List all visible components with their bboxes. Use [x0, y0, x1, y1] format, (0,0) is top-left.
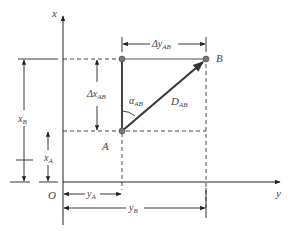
- svg-text:yA: yA: [86, 188, 96, 201]
- svg-text:ΔxAB: ΔxAB: [86, 88, 107, 101]
- point-B: [203, 56, 209, 62]
- alpha-arc: [122, 111, 135, 116]
- xA-dimension: xA: [39, 132, 58, 182]
- svg-text:yB: yB: [128, 202, 138, 215]
- yB-dimension: yB: [64, 188, 206, 218]
- y-axis-label: y: [275, 187, 281, 199]
- point-top-left: [119, 56, 125, 62]
- point-A-label: A: [101, 140, 109, 152]
- origin-label: O: [48, 189, 56, 201]
- point-B-label: B: [216, 52, 223, 64]
- svg-text:xA: xA: [43, 152, 53, 165]
- x-axis-label: x: [51, 7, 57, 19]
- delta-y-dimension: ΔyAB: [122, 37, 206, 52]
- delta-x-dimension: ΔxAB: [86, 60, 107, 130]
- distance-label: DAB: [170, 95, 188, 109]
- svg-text:xB: xB: [17, 113, 27, 126]
- yA-dimension: yA: [64, 188, 121, 201]
- alpha-label: αAB: [129, 95, 144, 108]
- coordinate-diagram: x y O A B ΔyAB ΔxAB αAB DAB: [0, 0, 288, 231]
- guide-lines: [63, 59, 206, 208]
- axes: x y O: [48, 7, 281, 225]
- svg-text:ΔyAB: ΔyAB: [151, 38, 172, 51]
- point-A: [119, 128, 125, 134]
